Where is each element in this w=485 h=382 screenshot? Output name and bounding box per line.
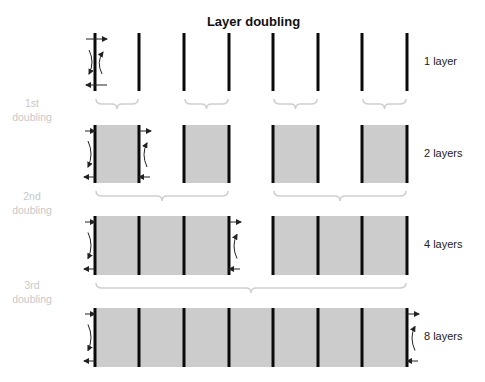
layer-block [273,125,318,183]
curly-bracket [96,191,228,201]
curly-bracket [274,99,317,109]
doubling-ordinal: 2nd [8,189,56,203]
doubling-ordinal: 1st [8,96,56,110]
doubling-label-2nd: 2nd doubling [8,189,56,217]
row-label-1-layer: 1 layer [424,55,457,67]
curved-arrow-down-icon [89,50,92,74]
curved-arrow-down-icon [88,233,91,259]
curved-arrow-down-icon [88,325,91,351]
row-label-4-layers: 4 layers [424,238,463,250]
curly-bracket [363,99,406,109]
curved-arrow-down-icon [88,141,91,167]
doubling-label-1st: 1st doubling [8,96,56,124]
layer-block [95,308,407,367]
row-label-2-layers: 2 layers [424,147,463,159]
doubling-word: doubling [8,203,56,217]
curved-arrow-up-icon [234,235,237,259]
layer-block [184,125,229,183]
diagram-title: Layer doubling [0,14,485,29]
layer-block [273,216,407,275]
layer-block [95,125,139,183]
layer-block [95,216,229,275]
curved-arrow-up-icon [412,327,415,351]
curved-arrow-up-icon [144,143,147,167]
layer-block [362,125,407,183]
doubling-ordinal: 3rd [8,278,56,292]
doubling-word: doubling [8,110,56,124]
curly-bracket [185,99,228,109]
curly-bracket [96,283,406,293]
layer-doubling-diagram [0,0,485,382]
curly-bracket [96,99,138,109]
curly-bracket [274,191,406,201]
shaded-layer-blocks [95,125,407,367]
doubling-label-3rd: 3rd doubling [8,278,56,306]
row-label-8-layers: 8 layers [424,330,463,342]
doubling-word: doubling [8,292,56,306]
curved-arrow-up-icon [99,52,103,74]
